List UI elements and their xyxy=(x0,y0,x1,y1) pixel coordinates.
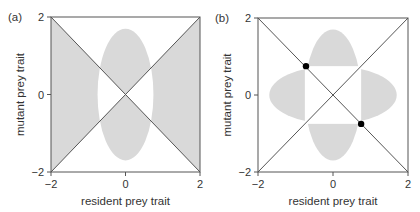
y-tick-label: 2 xyxy=(38,11,44,23)
figure: −2−20022resident prey traitmutant prey t… xyxy=(0,0,420,212)
x-tick-label: −2 xyxy=(252,178,265,190)
y-axis-label: mutant prey trait xyxy=(221,53,233,137)
equilibrium-point xyxy=(303,63,309,69)
equilibrium-point xyxy=(358,121,364,127)
x-tick-label: 0 xyxy=(122,178,128,190)
y-axis-label: mutant prey trait xyxy=(14,52,26,136)
x-axis-label: resident prey trait xyxy=(81,195,171,207)
x-tick-label: 2 xyxy=(197,178,203,190)
x-axis-label: resident prey trait xyxy=(289,195,379,207)
x-tick-label: 0 xyxy=(330,178,336,190)
panel-a: −2−20022resident prey traitmutant prey t… xyxy=(8,11,203,207)
x-tick-label: −2 xyxy=(45,178,58,190)
y-tick-label: 0 xyxy=(38,89,44,101)
y-tick-label: −2 xyxy=(31,166,44,178)
panel-label: (b) xyxy=(215,12,229,24)
y-tick-label: −2 xyxy=(238,166,251,178)
y-tick-label: 2 xyxy=(245,12,251,24)
panel-label: (a) xyxy=(8,11,22,23)
y-tick-label: 0 xyxy=(245,89,251,101)
panel-b: −2−20022resident prey traitmutant prey t… xyxy=(215,12,411,207)
x-tick-label: 2 xyxy=(405,178,411,190)
